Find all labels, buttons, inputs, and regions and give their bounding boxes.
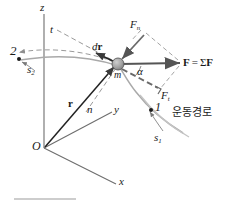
arc-length-s2-label: s2 [27, 64, 35, 77]
point-2-label: 2 [10, 44, 17, 57]
axis-label-x: x [119, 176, 124, 187]
arc-length-s1-arrow [150, 112, 163, 131]
path-caption: 운동경로 [172, 107, 212, 118]
force-resultant-arrow [121, 63, 180, 64]
position-vector-r [45, 67, 114, 147]
force-resultant-label: F=ΣF [183, 57, 213, 68]
mass-label: m [114, 70, 121, 80]
axis-label-z: z [40, 2, 44, 13]
motion-path-curve [119, 66, 183, 133]
force-normal-f-glyph: F [130, 18, 137, 30]
construction-dash-f-to-ft [160, 66, 179, 89]
construction-dash-fn-to-f [146, 33, 178, 60]
force-normal-label: Fn [130, 19, 140, 32]
origin-label-O: O [32, 140, 41, 152]
force-resultant-f-glyph: F [183, 56, 190, 68]
point-2-dot [17, 57, 21, 61]
axis-y [44, 112, 112, 148]
tangential-axis-label: t [50, 24, 53, 35]
displacement-vector-label: dr [92, 41, 102, 52]
force-tangential-f-glyph: F [161, 89, 168, 101]
axis-x [44, 148, 116, 184]
axis-label-y: y [114, 104, 119, 115]
angle-alpha-label: α [137, 66, 143, 77]
figure-canvas: z y x O r dr m F=ΣF Fn Ft α n t 1 2 s1 s… [0, 0, 228, 206]
normal-axis-label: n [87, 104, 93, 115]
position-vector-label: r [68, 98, 73, 109]
arc-length-s2-subscript: 2 [31, 69, 34, 76]
force-normal-subscript: n [137, 24, 140, 31]
force-tangential-label: Ft [161, 90, 170, 103]
force-tangential-subscript: t [168, 95, 170, 102]
point-1-dot [149, 108, 153, 112]
force-resultant-f2-glyph: F [206, 56, 213, 68]
point-1-label: 1 [155, 101, 161, 113]
displacement-r-glyph: r [98, 40, 103, 52]
arc-length-s1-label: s1 [154, 132, 162, 145]
force-resultant-equals-glyph: = [192, 56, 198, 68]
arc-length-s1-subscript: 1 [158, 137, 161, 144]
